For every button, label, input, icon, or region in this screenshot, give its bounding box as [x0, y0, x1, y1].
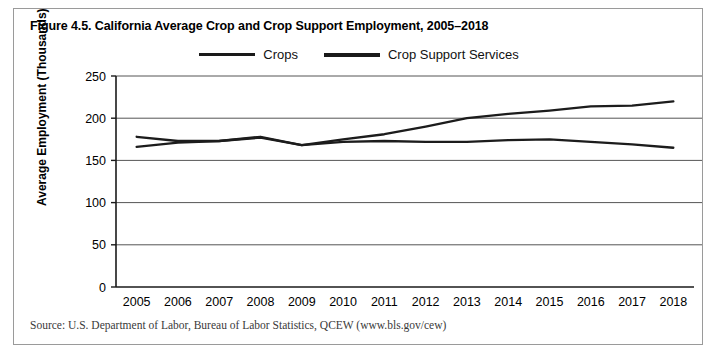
- line-chart-svg: 050100150200250 200520062007200820092010…: [14, 9, 704, 346]
- x-tick-label: 2012: [412, 295, 440, 309]
- plot-area: Average Employment (Thousands) 050100150…: [14, 9, 704, 346]
- figure-panel: Figure 4.5. California Average Crop and …: [13, 8, 703, 345]
- x-tick-label: 2008: [247, 295, 275, 309]
- x-tick-label: 2018: [659, 295, 687, 309]
- x-tick-label: 2005: [123, 295, 151, 309]
- x-tick-label: 2017: [618, 295, 646, 309]
- y-axis-ticks: 050100150200250: [85, 70, 116, 295]
- x-tick-label: 2007: [205, 295, 233, 309]
- x-tick-label: 2014: [494, 295, 522, 309]
- x-tick-label: 2016: [577, 295, 605, 309]
- x-tick-label: 2010: [329, 295, 357, 309]
- x-tick-label: 2006: [164, 295, 192, 309]
- y-tick-label: 100: [85, 196, 106, 210]
- series-line-crop-support-services: [137, 137, 674, 148]
- x-tick-label: 2013: [453, 295, 481, 309]
- x-tick-label: 2011: [371, 295, 398, 309]
- x-tick-label: 2009: [288, 295, 316, 309]
- x-axis-ticks: 2005200620072008200920102011201220132014…: [123, 295, 688, 309]
- y-tick-label: 150: [85, 154, 106, 168]
- y-tick-label: 0: [99, 281, 106, 295]
- y-tick-label: 250: [85, 70, 106, 84]
- y-tick-label: 50: [92, 238, 106, 252]
- x-tick-label: 2015: [536, 295, 564, 309]
- y-tick-label: 200: [85, 112, 106, 126]
- grid-lines: [116, 76, 702, 245]
- source-note: Source: U.S. Department of Labor, Bureau…: [30, 319, 446, 331]
